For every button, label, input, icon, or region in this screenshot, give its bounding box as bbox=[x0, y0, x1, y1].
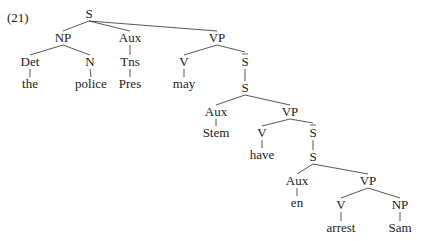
tree-node-sam: Sam bbox=[388, 220, 411, 235]
tree-node-vp0: VP bbox=[209, 30, 226, 45]
tree-node-en: en bbox=[291, 195, 304, 210]
tree-node-v0: V bbox=[179, 54, 189, 69]
tree-node-the: the bbox=[22, 76, 38, 91]
tree-edges bbox=[30, 21, 400, 221]
example-number: (21) bbox=[7, 10, 29, 25]
tree-node-np0: NP bbox=[55, 30, 72, 45]
tree-node-aux0: Aux bbox=[119, 30, 142, 45]
tree-node-vp1: VP bbox=[282, 104, 299, 119]
tree-node-stem: Stem bbox=[203, 125, 230, 140]
tree-node-np2: NP bbox=[392, 197, 409, 212]
tree-node-s2: S bbox=[309, 149, 316, 164]
syntax-tree-diagram: (21) SNPAuxVPDetNTnsVSthepolicePresmaySA… bbox=[0, 0, 421, 241]
tree-node-police: police bbox=[75, 76, 107, 91]
tree-node-tns0: Tns bbox=[120, 54, 140, 69]
tree-node-v2: V bbox=[336, 197, 346, 212]
tree-node-v1: V bbox=[257, 125, 267, 140]
tree-node-det0: Det bbox=[21, 54, 40, 69]
tree-node-sbar0: S bbox=[241, 54, 248, 69]
tree-node-aux1: Aux bbox=[205, 104, 228, 119]
tree-edge bbox=[290, 119, 313, 123]
tree-node-may: may bbox=[173, 76, 196, 91]
tree-node-vp2: VP bbox=[360, 173, 377, 188]
tree-node-n0: N bbox=[85, 54, 95, 69]
tree-node-sbar1: S bbox=[309, 125, 316, 140]
tree-edge bbox=[184, 45, 217, 55]
tree-node-pres: Pres bbox=[119, 76, 141, 91]
tree-node-s0: S bbox=[85, 6, 92, 21]
tree-node-have: have bbox=[250, 147, 275, 162]
tree-node-arrest: arrest bbox=[327, 220, 356, 235]
tree-node-s1: S bbox=[241, 80, 248, 95]
tree-node-aux2: Aux bbox=[286, 173, 309, 188]
tree-edge bbox=[217, 45, 245, 52]
